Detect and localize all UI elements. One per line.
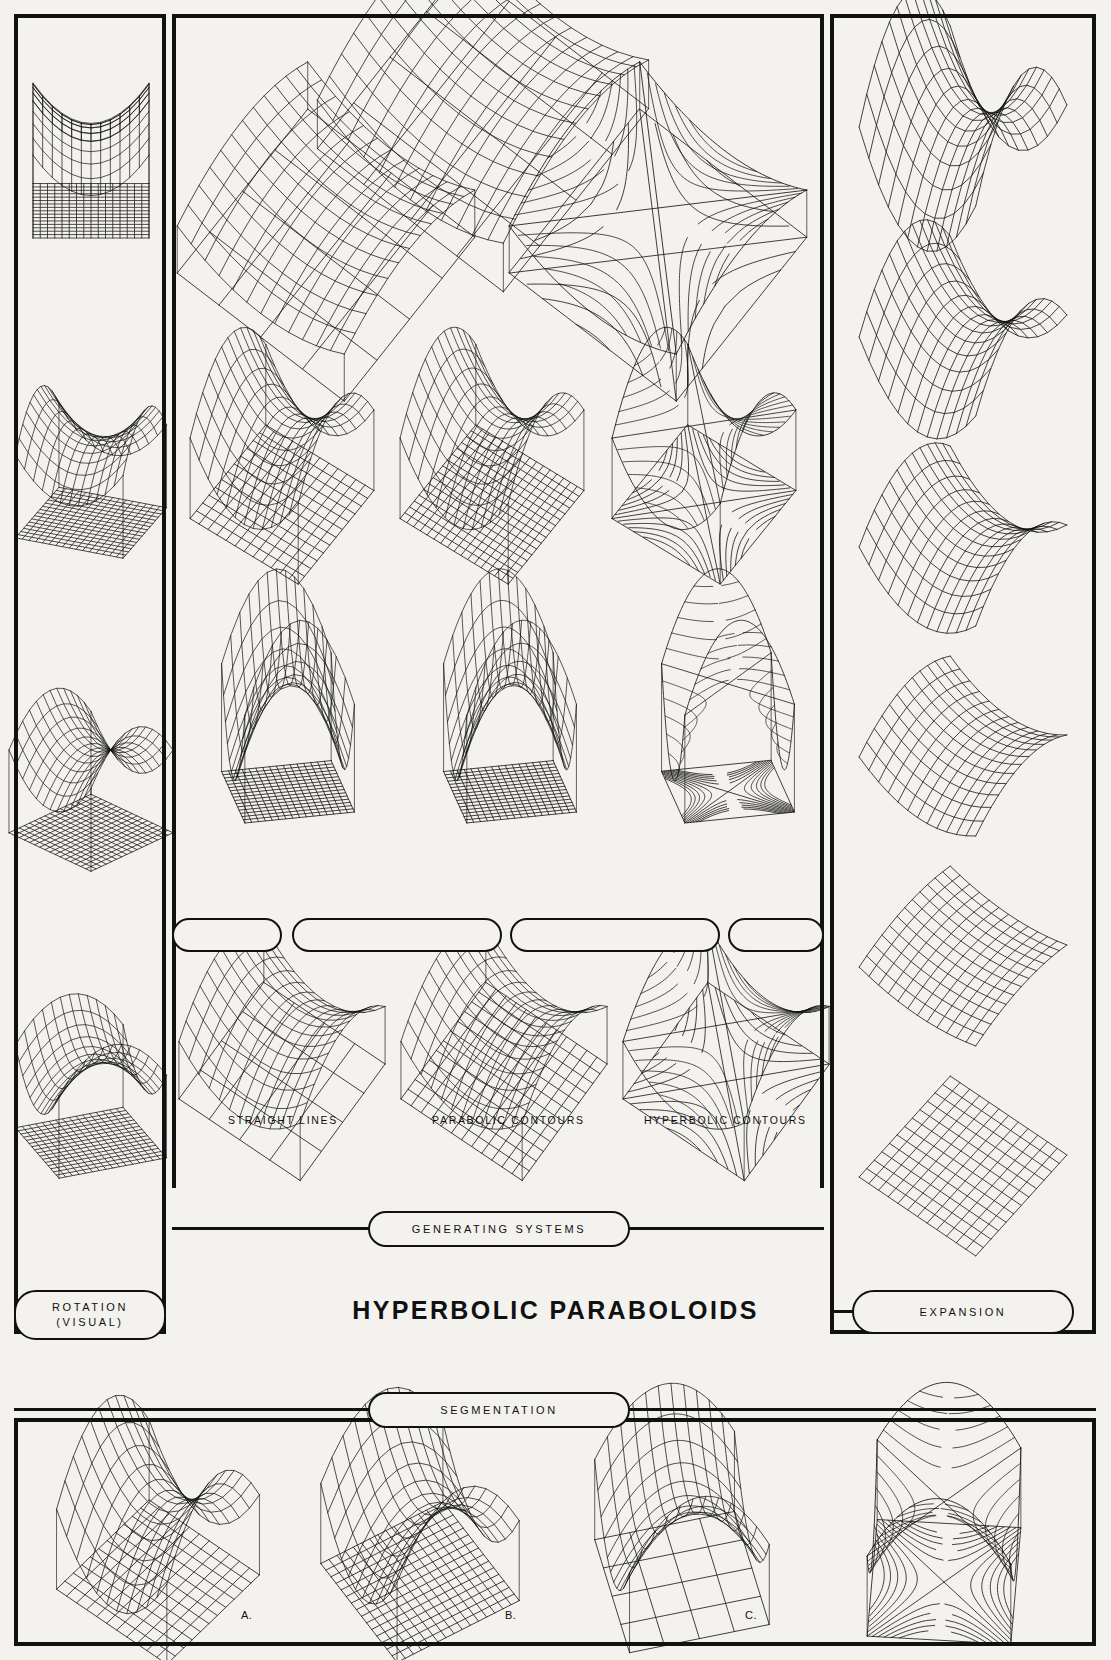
divider-tab-2: [292, 918, 502, 952]
figure-generating-r2-straight: [176, 150, 476, 290]
mask-0: [176, 1184, 820, 1194]
figure-generating-r3-hyperbolic-contours: [600, 352, 808, 522]
figure-rotation-2: [18, 330, 164, 630]
divider-tab-3: [510, 918, 720, 952]
figure-expansion-5: [846, 860, 1080, 1060]
caption-parabolic-contours: PARABOLIC CONTOURS: [432, 1114, 585, 1126]
caption-hyperbolic-contours: HYPERBOLIC CONTOURS: [644, 1114, 807, 1126]
figure-generating-r2-hyperbolic: [508, 150, 808, 290]
figure-segmentation-b: [292, 1424, 548, 1624]
plate: STRAIGHT LINESPARABOLIC CONTOURSHYPERBOL…: [0, 0, 1111, 1660]
figure-generating-r5-straight-lines: [178, 962, 386, 1122]
segmentation-letter-c: C.: [745, 1609, 757, 1621]
figure-generating-r4-hyperbolic-contours: [628, 556, 828, 896]
figure-generating-r4-parabolic-contours: [410, 556, 610, 896]
segmentation-letter-a: A.: [241, 1609, 252, 1621]
page-title: HYPERBOLIC PARABOLOIDS: [0, 1296, 1111, 1325]
caption-straight-lines: STRAIGHT LINES: [228, 1114, 338, 1126]
rule-segmentation-left: [14, 1408, 370, 1411]
rule-generating-left: [172, 1227, 370, 1230]
figure-rotation-3: [18, 640, 164, 940]
figure-rotation-4: [18, 950, 164, 1250]
figure-segmentation-c: [554, 1424, 810, 1624]
label-generating-systems: GENERATING SYSTEMS: [368, 1211, 630, 1247]
divider-tab-4: [728, 918, 824, 952]
segmentation-letter-b: B.: [505, 1609, 516, 1621]
rule-segmentation-right: [628, 1408, 1096, 1411]
divider-tab-1: [172, 918, 282, 952]
figure-generating-r4-straight-lines: [188, 556, 388, 896]
figure-segmentation-a: [30, 1424, 286, 1624]
rule-generating-right: [628, 1227, 824, 1230]
figure-expansion-3: [846, 440, 1080, 640]
figure-generating-r5-parabolic-contours: [400, 962, 608, 1122]
figure-segmentation-d: [816, 1424, 1072, 1624]
label-generating-text: GENERATING SYSTEMS: [412, 1222, 586, 1237]
label-segmentation-text: SEGMENTATION: [440, 1403, 558, 1418]
figure-expansion-4: [846, 650, 1080, 850]
figure-expansion-1: [846, 20, 1080, 220]
figure-rotation-1: [18, 18, 164, 318]
figure-expansion-2: [846, 230, 1080, 430]
figure-generating-r5-hyperbolic-contours: [622, 962, 830, 1122]
figure-expansion-6: [846, 1070, 1080, 1270]
figure-generating-r3-straight-lines: [178, 352, 386, 522]
label-segmentation: SEGMENTATION: [368, 1392, 630, 1428]
figure-generating-r3-parabolic-contours: [388, 352, 596, 522]
